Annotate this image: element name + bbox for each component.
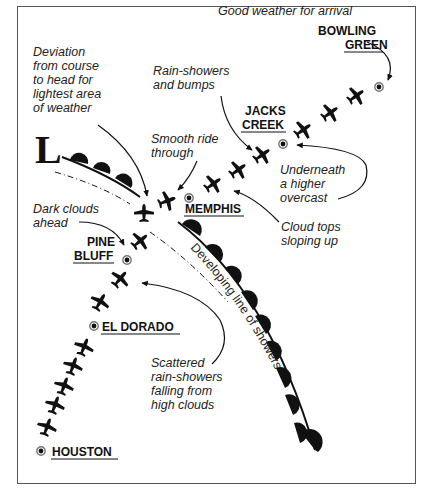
bowling-green-marker — [375, 83, 383, 91]
svg-text:and bumps: and bumps — [153, 78, 215, 92]
houston-marker — [37, 447, 45, 455]
city-pine-bluff-2: BLUFF — [74, 249, 113, 263]
annotation-smooth-ride: Smooth ride through — [151, 132, 218, 190]
svg-text:lightest area: lightest area — [33, 87, 101, 101]
city-pine-bluff-1: PINE — [87, 235, 115, 249]
svg-text:a higher: a higher — [280, 177, 326, 191]
svg-text:to head for: to head for — [33, 73, 94, 87]
front-label: Developing line of showers — [188, 240, 285, 371]
annotation-underneath: Underneath a higher overcast — [280, 145, 367, 205]
memphis-marker — [185, 194, 193, 202]
svg-text:Rain-showers: Rain-showers — [153, 64, 229, 78]
svg-text:Smooth ride: Smooth ride — [151, 132, 218, 146]
city-jacks-creek-1: JACKS — [245, 104, 286, 118]
annotation-deviation: Deviation from course to head for lighte… — [33, 45, 147, 196]
svg-text:falling from: falling from — [151, 384, 212, 398]
pine-bluff-marker — [123, 256, 131, 264]
el-dorado-marker — [90, 322, 98, 330]
svg-text:Underneath: Underneath — [280, 163, 345, 177]
jacks-creek-marker — [279, 140, 287, 148]
city-houston: HOUSTON — [52, 445, 112, 459]
svg-text:overcast: overcast — [280, 191, 328, 205]
svg-text:rain-showers: rain-showers — [151, 370, 223, 384]
svg-text:Dark clouds: Dark clouds — [33, 202, 99, 216]
svg-text:high clouds: high clouds — [151, 398, 214, 412]
city-jacks-creek-2: CREEK — [242, 118, 284, 132]
svg-text:Good weather for arrival: Good weather for arrival — [218, 4, 353, 18]
city-memphis: MEMPHIS — [185, 202, 241, 216]
svg-text:through: through — [151, 146, 193, 160]
city-bowling-green-1: BOWLING — [318, 24, 376, 38]
annotation-scattered-showers: Scattered rain-showers falling from high… — [142, 283, 225, 412]
low-pressure-symbol: L — [35, 127, 62, 172]
city-el-dorado: EL DORADO — [102, 320, 174, 334]
svg-text:Cloud tops: Cloud tops — [281, 220, 341, 234]
svg-text:of weather: of weather — [33, 101, 92, 115]
svg-text:Scattered: Scattered — [151, 356, 206, 370]
svg-text:ahead: ahead — [33, 216, 69, 230]
svg-text:sloping up: sloping up — [281, 234, 338, 248]
svg-text:Deviation: Deviation — [33, 45, 85, 59]
svg-text:from course: from course — [33, 59, 99, 73]
upper-front-line — [62, 153, 140, 197]
weather-route-diagram: L Developing line of showers BOWLING GRE… — [0, 0, 423, 494]
